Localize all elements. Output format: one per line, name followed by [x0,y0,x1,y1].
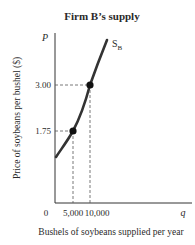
supply-chart: Firm B’s supply P q SB 3.00 1.75 0 5,000… [0,0,195,245]
y-axis-symbol: P [41,32,48,43]
supply-curve [56,40,107,157]
point-10000-300 [86,81,93,88]
x-tick-10000: 10,000 [85,208,110,218]
x-axis-title: Bushels of soybeans supplied per year [38,227,184,237]
x-axis-symbol: q [181,207,186,218]
y-tick-175: 1.75 [35,126,51,136]
point-5000-175 [69,127,76,134]
chart-title: Firm B’s supply [64,10,140,22]
y-tick-300: 3.00 [35,80,51,90]
origin-label: 0 [44,208,49,218]
x-tick-5000: 5,000 [63,208,84,218]
curve-label: SB [112,38,123,52]
y-axis-title: Price of soybeans per bushel ($) [12,57,23,179]
